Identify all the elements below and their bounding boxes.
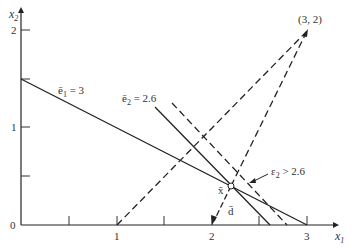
y-axis-arrow-icon xyxy=(18,7,24,13)
e2-label: ē2 = 2.6 xyxy=(122,92,157,107)
x-ticks xyxy=(69,216,307,225)
y-tick-label-1: 1 xyxy=(11,121,17,133)
e1-constraint-line xyxy=(21,79,307,225)
x-bar-point xyxy=(228,183,234,189)
direction-d-arrowhead-icon xyxy=(211,215,217,225)
eps2-pointer-arrowhead-icon xyxy=(249,178,256,183)
eps2-label: ε2 > 2.6 xyxy=(271,165,306,180)
e1-label: ē1 = 3 xyxy=(58,84,85,99)
apex-arrow-icon xyxy=(302,29,308,37)
y-tick-label-2: 2 xyxy=(11,24,17,36)
d-bar-label: d̄ xyxy=(228,205,234,217)
cone-left-line xyxy=(117,30,308,225)
x-tick-label-3: 3 xyxy=(304,230,310,242)
x-tick-label-2: 2 xyxy=(209,230,215,242)
x-tick-label-1: 1 xyxy=(114,230,120,242)
x-axis-arrow-icon xyxy=(333,222,339,228)
diagram-canvas: 1 2 3 0 1 2 x1 x2 ē1 = 3 ē2 = 2.6 ε2 > 2… xyxy=(0,0,353,249)
y-tick-label-0: 0 xyxy=(10,219,16,231)
y-ticks xyxy=(21,30,30,176)
e2-constraint-line xyxy=(155,107,270,225)
x-bar-label: x̄ xyxy=(218,184,224,196)
apex-label: (3, 2) xyxy=(298,13,322,26)
x-axis-label: x1 xyxy=(334,229,344,245)
cone-right-line xyxy=(231,33,306,186)
y-axis-label: x2 xyxy=(8,7,18,23)
